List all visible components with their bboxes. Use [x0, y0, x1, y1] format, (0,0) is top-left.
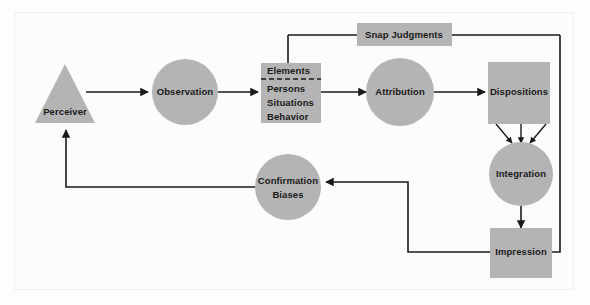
node-perceiver[interactable]: Perceiver [35, 64, 95, 123]
node-confirmation-biases[interactable]: Confirmation Biases [255, 154, 321, 220]
flowchart-svg: Perceiver Observation Elements Persons S… [0, 0, 590, 305]
node-snap-judgments[interactable]: Snap Judgments [357, 23, 452, 46]
node-attribution[interactable]: Attribution [366, 58, 434, 126]
node-observation[interactable]: Observation [152, 59, 218, 125]
impression-label: Impression [495, 246, 547, 257]
edge-confirmation-to-perceiver [66, 130, 255, 187]
elements-item-situations: Situations [267, 97, 314, 108]
elements-header-label: Elements [267, 65, 310, 76]
node-impression[interactable]: Impression [490, 228, 552, 278]
elements-item-behavior: Behavior [267, 111, 309, 122]
node-dispositions[interactable]: Dispositions [488, 62, 550, 124]
dispositions-label: Dispositions [490, 86, 548, 97]
edge-dispositions-to-integration-right [530, 124, 546, 143]
node-integration[interactable]: Integration [489, 142, 553, 206]
integration-label: Integration [496, 168, 546, 179]
confirmation-biases-label-line2: Biases [272, 189, 303, 200]
diagram-canvas: Perceiver Observation Elements Persons S… [0, 0, 590, 305]
attribution-label: Attribution [375, 86, 425, 97]
edge-impression-to-confirmation [326, 182, 499, 252]
confirmation-biases-circle [255, 154, 321, 220]
snap-judgments-label: Snap Judgments [365, 29, 443, 40]
confirmation-biases-label-line1: Confirmation [258, 175, 318, 186]
observation-label: Observation [157, 86, 214, 97]
edge-dispositions-to-integration-left [496, 124, 512, 143]
node-elements[interactable]: Elements Persons Situations Behavior [261, 63, 321, 123]
elements-item-persons: Persons [267, 83, 305, 94]
perceiver-label: Perceiver [43, 106, 87, 117]
